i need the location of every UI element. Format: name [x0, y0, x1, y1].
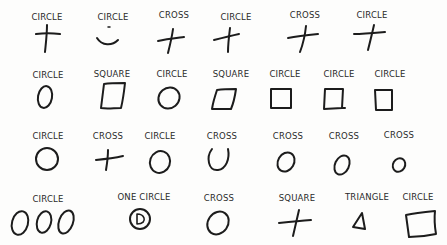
row1-item1-label: CIRCLE [31, 12, 62, 22]
square-shape [98, 80, 128, 112]
circle-shape [155, 84, 183, 112]
row2-item7-label: CIRCLE [374, 69, 405, 79]
cross-shape [352, 22, 386, 52]
square-shape [321, 86, 347, 114]
small-circle-shape [389, 155, 409, 175]
circle-shape [32, 144, 62, 174]
row4-item2-label: ONE CIRCLE [117, 192, 170, 202]
circle-shape [330, 152, 354, 178]
row1-item6-label: CIRCLE [356, 10, 387, 20]
cross-shape [212, 24, 242, 54]
circle-shape [274, 149, 298, 175]
three-circles-shape [6, 207, 76, 239]
smile-arc-shape [94, 24, 124, 50]
row2-item2-label: SQUARE [94, 69, 131, 79]
row1-item3-label: CROSS [159, 10, 189, 20]
row3-item7-label: CROSS [384, 130, 414, 140]
row1-item5-label: CROSS [290, 10, 320, 20]
cross-shape [94, 147, 126, 173]
cross-shape [156, 25, 186, 55]
square-shape [268, 86, 294, 112]
row3-item5-label: CROSS [273, 131, 303, 141]
triangle-shape [348, 209, 370, 235]
cross-shape [277, 207, 313, 239]
row2-item3-label: CIRCLE [156, 69, 187, 79]
row3-item1-label: CIRCLE [32, 131, 63, 141]
u-shape [204, 145, 234, 175]
row1-item2-label: CIRCLE [97, 12, 128, 22]
row4-item5-label: TRIANGLE [345, 192, 389, 202]
row3-item3-label: CIRCLE [144, 131, 175, 141]
row3-item2-label: CROSS [93, 131, 123, 141]
row4-item3-label: CROSS [204, 193, 234, 203]
row2-item6-label: CIRCLE [323, 69, 354, 79]
row4-item4-label: SQUARE [279, 193, 316, 203]
row3-item4-label: CROSS [207, 131, 237, 141]
row4-item6-label: CIRCLE [402, 192, 433, 202]
row1-item4-label: CIRCLE [220, 12, 251, 22]
cross-shape [286, 24, 320, 54]
square-shape [210, 86, 238, 112]
square-shape [372, 87, 396, 115]
circle-shape [146, 148, 174, 176]
row3-item6-label: CROSS [329, 131, 359, 141]
row4-item1-label: CIRCLE [32, 194, 63, 204]
row2-item5-label: CIRCLE [269, 69, 300, 79]
row2-item1-label: CIRCLE [32, 70, 63, 80]
nested-circle-shape [126, 205, 154, 233]
cross-shape [33, 22, 63, 54]
hand-drawn-shape-label-diagram: CIRCLE CIRCLE CROSS CIRCLE CROSS CIRCLE … [0, 0, 447, 245]
circle-shape [203, 208, 233, 238]
row2-item4-label: SQUARE [213, 69, 250, 79]
circle-shape [34, 82, 56, 112]
square-shape [403, 208, 439, 242]
